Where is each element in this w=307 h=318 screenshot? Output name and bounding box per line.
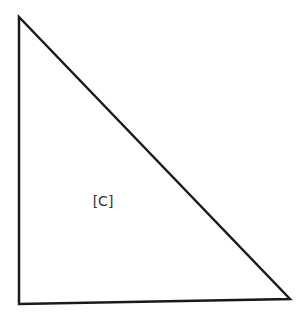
triangle-diagram: [C]	[0, 0, 307, 318]
triangle-label: [C]	[93, 193, 114, 209]
right-triangle	[19, 17, 290, 304]
